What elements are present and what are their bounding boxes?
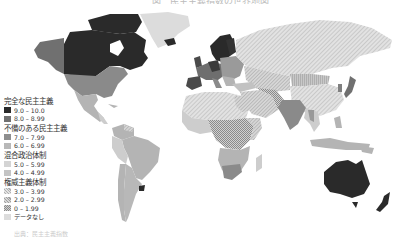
legend-heading-authoritarian: 権威主義体制 [4, 178, 94, 187]
legend-heading-full-democracy: 完全な民主主義 [4, 97, 94, 106]
legend-swatch [4, 197, 11, 203]
legend-swatch [4, 170, 11, 176]
legend-item: 7.0 – 7.99 [4, 133, 94, 142]
legend-swatch [4, 107, 11, 113]
map-legend: 完全な民主主義 9.0 – 10.0 8.0 – 8.99 不備のある民主主義 … [4, 96, 94, 221]
legend-swatch [4, 143, 11, 149]
legend-item-no-data: データなし [4, 213, 94, 222]
legend-item: 3.0 – 3.99 [4, 187, 94, 196]
legend-heading-flawed-democracy: 不備のある民主主義 [4, 124, 94, 133]
region-india [278, 100, 306, 130]
legend-swatch [4, 134, 11, 140]
legend-item: 0 – 1.99 [4, 204, 94, 213]
legend-item: 8.0 – 8.99 [4, 115, 94, 124]
region-mongolia [290, 74, 330, 86]
region-alaska [34, 38, 64, 74]
region-turkey [232, 82, 256, 92]
legend-item: 5.0 – 5.99 [4, 160, 94, 169]
region-new-zealand [376, 192, 390, 212]
region-greenland [140, 12, 190, 48]
legend-swatch [4, 188, 11, 194]
region-australia [324, 160, 370, 198]
region-tasmania [352, 202, 358, 208]
legend-swatch [4, 214, 11, 220]
region-iberia [186, 76, 202, 90]
region-korea [338, 84, 342, 92]
legend-item: 6.0 – 6.99 [4, 142, 94, 151]
region-uruguay [139, 185, 145, 191]
legend-heading-hybrid-regime: 混合政治体制 [4, 151, 94, 160]
region-japan [344, 76, 356, 98]
legend-item: 4.0 – 4.99 [4, 169, 94, 178]
legend-item: 9.0 – 10.0 [4, 106, 94, 115]
region-central-africa [208, 118, 254, 150]
region-png [360, 146, 374, 154]
legend-swatch [4, 205, 11, 211]
region-russia [236, 20, 392, 76]
legend-swatch [4, 161, 11, 167]
legend-item: 2.0 – 2.99 [4, 196, 94, 205]
map-footer: 出典：民主主義指数 [14, 229, 68, 237]
region-philippines [334, 116, 342, 128]
region-south-africa [222, 164, 242, 180]
region-madagascar [256, 154, 262, 172]
legend-swatch [4, 116, 11, 122]
